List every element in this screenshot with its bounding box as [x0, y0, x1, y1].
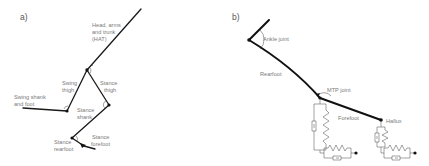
ankle-joint-marker — [247, 38, 251, 42]
swing-knee-angle-arc-icon — [64, 106, 68, 109]
rearfoot-label: Rearfoot — [260, 71, 282, 77]
forefoot-arrow-icon — [80, 143, 86, 148]
horizontal-damper-icon — [324, 156, 351, 160]
stance-forefoot-label-line2: forefoot — [91, 141, 110, 147]
stance-shank-label-line1: Stance — [77, 107, 94, 113]
stance-thigh-label-line2: thigh — [104, 87, 116, 93]
figure-canvas: a) Head, arms and trunk (HAT) Swing thig… — [0, 0, 429, 166]
swing-thigh-label-line2: thigh — [62, 87, 74, 93]
mtp-joint-marker — [318, 96, 321, 99]
hallux-joint-marker — [379, 118, 383, 122]
mtp-ground-point — [354, 151, 357, 154]
hallux-vertical-damper-icon — [375, 127, 379, 147]
hallux-contact-element — [375, 122, 417, 160]
panel-a-label: a) — [20, 12, 28, 22]
swing-thigh-label-line1: Swing — [62, 80, 77, 86]
stance-forefoot-label-line1: Stance — [92, 134, 109, 140]
stance-knee-joint-marker — [107, 103, 110, 106]
hat-label-line3: (HAT) — [92, 36, 107, 42]
hallux-horizontal-spring-icon — [384, 145, 410, 151]
hat-label-line1: Head, arms — [92, 22, 121, 28]
stance-thigh-label-line1: Stance — [100, 80, 117, 86]
hallux-horizontal-damper-icon — [384, 156, 410, 160]
panel-b: b) Ankle joint Rearfoot MTP joint Forefo… — [232, 12, 417, 160]
mtp-joint-label: MTP joint — [327, 87, 351, 93]
swing-shank-label-line1: Swing shank — [14, 94, 46, 100]
forefoot-label: Forefoot — [338, 115, 359, 121]
panel-b-label: b) — [232, 12, 240, 22]
rearfoot-segment — [249, 40, 320, 98]
vertical-spring-icon — [323, 104, 329, 150]
swing-knee-joint-marker — [65, 109, 68, 112]
stance-shank-label-line2: shank — [77, 114, 92, 120]
panel-a: a) Head, arms and trunk (HAT) Swing thig… — [14, 9, 141, 152]
hallux-ground-point — [413, 151, 416, 154]
stance-ankle-joint-marker — [70, 136, 73, 139]
swing-shank-segment — [23, 108, 67, 111]
hip-joint-marker — [85, 68, 88, 71]
stance-knee-angle-arc-icon — [103, 101, 106, 108]
horizontal-spring-icon — [324, 145, 351, 151]
swing-shank-label-line2: and foot — [14, 101, 35, 107]
hallux-vertical-spring-icon — [382, 127, 388, 147]
vertical-damper-icon — [312, 104, 316, 150]
stance-rearfoot-label-line2: rearfoot — [54, 146, 74, 152]
hallux-label: Hallux — [386, 118, 402, 124]
ankle-joint-label: Ankle joint — [263, 36, 289, 42]
stance-rearfoot-label-line1: Stance — [54, 139, 71, 145]
mtp-angle-arc-icon — [318, 93, 331, 96]
hat-label-line2: and trunk — [92, 29, 116, 35]
